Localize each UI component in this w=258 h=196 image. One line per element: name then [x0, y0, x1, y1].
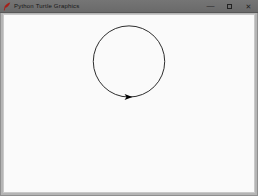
drawn-circle	[93, 26, 164, 97]
turtle-drawing	[4, 15, 254, 192]
maximize-button[interactable]	[220, 0, 239, 13]
turtle-graphics-window: Python Turtle Graphics — ✕	[0, 0, 258, 196]
window-controls: — ✕	[201, 0, 258, 13]
tk-feather-icon	[3, 2, 11, 11]
maximize-box-icon	[227, 4, 232, 9]
window-title: Python Turtle Graphics	[14, 0, 79, 13]
turtle-canvas	[3, 14, 255, 193]
minimize-button[interactable]: —	[201, 0, 220, 13]
titlebar[interactable]: Python Turtle Graphics — ✕	[0, 0, 258, 13]
close-button[interactable]: ✕	[239, 0, 258, 13]
